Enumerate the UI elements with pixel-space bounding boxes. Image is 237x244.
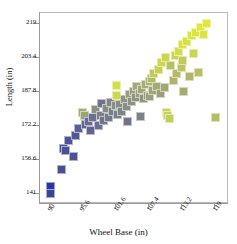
y-tick-label: 172.2 — [2, 121, 36, 128]
x-axis-title: Wheel Base (in) — [0, 227, 237, 237]
data-point — [199, 30, 208, 39]
data-point — [69, 152, 78, 161]
data-point-layer — [40, 13, 227, 202]
data-point — [179, 87, 188, 96]
data-point — [165, 114, 174, 123]
data-point — [57, 165, 66, 174]
data-point — [202, 19, 211, 28]
data-point — [123, 117, 132, 126]
y-tick-label: 141 — [2, 189, 36, 196]
y-tick-label: 156.6 — [2, 155, 36, 162]
y-axis-line — [39, 12, 40, 203]
data-point — [178, 56, 187, 65]
data-point — [166, 61, 175, 70]
data-point — [194, 68, 203, 77]
x-tick-label: 90 — [47, 203, 57, 213]
data-point — [185, 72, 194, 81]
y-axis-title: Length (in) — [4, 55, 14, 119]
data-point — [112, 81, 121, 90]
data-point — [189, 49, 198, 58]
y-tick-label: 219 — [2, 19, 36, 26]
data-point — [136, 112, 145, 121]
x-axis-line — [39, 203, 228, 204]
scatter-plot-figure: 141156.6172.2187.8203.4219 Length (in) 9… — [0, 0, 237, 244]
plot-area — [39, 12, 228, 203]
data-point — [46, 189, 55, 198]
data-point — [211, 113, 220, 122]
data-point — [160, 83, 169, 92]
